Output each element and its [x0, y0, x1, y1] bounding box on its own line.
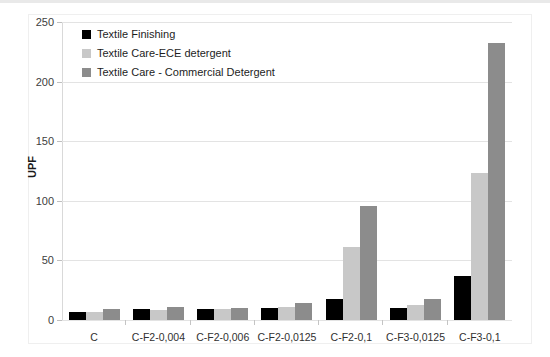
bar[interactable] [167, 307, 184, 320]
y-axis-tick-label: 0 [48, 314, 54, 326]
legend-item-label: Textile Finishing [97, 28, 175, 40]
category-separator [447, 320, 448, 325]
legend-item[interactable]: Textile Care - Commercial Detergent [82, 66, 275, 78]
bar[interactable] [471, 173, 488, 320]
legend-swatch-icon [82, 68, 91, 77]
category-separator [254, 320, 255, 325]
y-axis-tick-label: 100 [36, 195, 54, 207]
bar[interactable] [390, 308, 407, 320]
bar[interactable] [326, 299, 343, 320]
legend-swatch-icon [82, 49, 91, 58]
bar[interactable] [69, 312, 86, 320]
bar[interactable] [150, 310, 167, 320]
bar[interactable] [360, 206, 377, 320]
bar-group: C-F2-0,1 [319, 22, 383, 320]
legend-item-label: Textile Care-ECE detergent [97, 47, 231, 59]
legend-item[interactable]: Textile Finishing [82, 28, 275, 40]
bar[interactable] [133, 309, 150, 320]
legend-swatch-icon [82, 30, 91, 39]
bar[interactable] [407, 305, 424, 320]
bar[interactable] [214, 309, 231, 320]
x-axis-category-label: C-F2-0,004 [132, 331, 185, 343]
legend-item[interactable]: Textile Care-ECE detergent [82, 47, 275, 59]
y-axis-tick [57, 320, 62, 321]
y-axis-tick-label: 50 [42, 254, 54, 266]
x-axis-category-label: C-F3-0,0125 [386, 331, 445, 343]
window-top-edge [0, 0, 550, 3]
bar[interactable] [343, 247, 360, 320]
bar-group: C-F3-0,0125 [383, 22, 447, 320]
legend-item-label: Textile Care - Commercial Detergent [97, 66, 275, 78]
x-axis-category-label: C-F2-0,006 [196, 331, 249, 343]
y-axis-title: UPF [26, 156, 38, 178]
bar[interactable] [231, 308, 248, 320]
y-axis-tick-label: 200 [36, 76, 54, 88]
bar-chart: UPF 050100150200250 CC-F2-0,004C-F2-0,00… [0, 0, 550, 357]
y-axis-tick-label: 250 [36, 16, 54, 28]
x-axis-category-label: C-F3-0,1 [459, 331, 500, 343]
category-separator [318, 320, 319, 325]
bar[interactable] [261, 308, 278, 320]
bar[interactable] [86, 312, 103, 320]
bar-group: C-F3-0,1 [448, 22, 512, 320]
bar[interactable] [454, 276, 471, 320]
bar[interactable] [278, 307, 295, 320]
gridline: 0 [62, 320, 512, 321]
bar[interactable] [488, 43, 505, 320]
x-axis-category-label: C-F2-0,0125 [258, 331, 317, 343]
y-axis-tick-label: 150 [36, 135, 54, 147]
category-separator [125, 320, 126, 325]
bar[interactable] [295, 303, 312, 320]
x-axis-category-label: C-F2-0,1 [331, 331, 372, 343]
x-axis-category-label: C [90, 331, 98, 343]
category-separator [382, 320, 383, 325]
chart-legend: Textile FinishingTextile Care-ECE deterg… [82, 28, 275, 85]
bar[interactable] [197, 309, 214, 320]
bar[interactable] [424, 299, 441, 320]
bar[interactable] [103, 309, 120, 320]
category-separator [190, 320, 191, 325]
